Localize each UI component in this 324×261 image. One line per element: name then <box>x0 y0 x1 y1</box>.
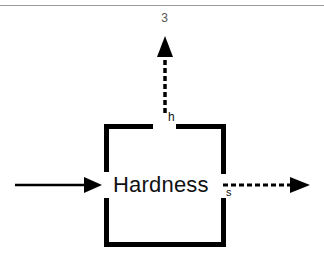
right-output-arrow <box>223 177 310 193</box>
top-output-label: h <box>168 110 175 124</box>
box-label: Hardness <box>113 172 209 198</box>
right-output-label: s <box>226 186 232 198</box>
top-output-arrow <box>157 36 173 113</box>
box-bottom-segment <box>107 198 224 245</box>
box-top-right-segment <box>176 127 224 175</box>
diagram-canvas <box>0 0 324 261</box>
input-arrow <box>15 177 102 193</box>
box-top-left-segment <box>107 127 154 173</box>
